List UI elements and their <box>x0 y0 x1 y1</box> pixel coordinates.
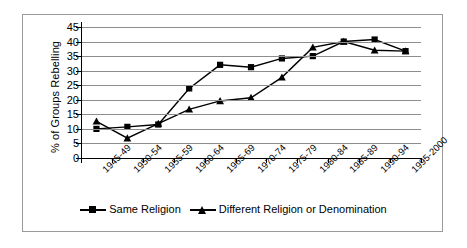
gridline <box>81 100 421 101</box>
x-tick-mark <box>390 159 391 163</box>
gridline <box>81 85 421 86</box>
gridline <box>81 56 421 57</box>
y-tick-mark <box>76 114 81 115</box>
gridline <box>81 71 421 72</box>
y-tick-mark <box>76 129 81 130</box>
x-tick-mark <box>359 159 360 163</box>
chart-legend: Same Religion Different Religion or Deno… <box>23 204 444 215</box>
x-tick-mark <box>81 159 82 163</box>
legend-label: Different Religion or Denomination <box>219 204 387 215</box>
x-tick-mark <box>205 159 206 163</box>
data-point-triangle <box>123 134 131 141</box>
y-tick-mark <box>76 143 81 144</box>
data-point-square <box>217 62 223 68</box>
series-canvas <box>81 27 421 158</box>
legend-marker-triangle-icon <box>190 205 216 215</box>
x-tick-mark <box>143 159 144 163</box>
chart-figure: % of Groups Rebelling 454035302520151050… <box>22 14 443 232</box>
x-tick-mark <box>112 159 113 163</box>
legend-label: Same Religion <box>109 204 181 215</box>
gridline <box>81 129 421 130</box>
legend-entry-different-religion: Different Religion or Denomination <box>190 204 387 215</box>
x-tick-mark <box>328 159 329 163</box>
plot-area <box>81 27 421 158</box>
x-tick-mark <box>266 159 267 163</box>
data-point-square <box>186 85 192 91</box>
y-axis-line <box>81 22 82 158</box>
y-tick-mark <box>76 100 81 101</box>
x-tick-mark <box>297 159 298 163</box>
x-tick-mark <box>236 159 237 163</box>
legend-marker-square-icon <box>80 205 106 215</box>
gridline <box>81 27 421 28</box>
y-tick-mark <box>76 85 81 86</box>
gridline <box>81 42 421 43</box>
y-tick-mark <box>76 71 81 72</box>
gridline <box>81 114 421 115</box>
y-tick-mark <box>76 27 81 28</box>
x-tick-mark <box>421 159 422 163</box>
data-point-triangle <box>93 117 101 124</box>
y-tick-mark <box>76 42 81 43</box>
data-point-square <box>248 64 254 70</box>
x-tick-mark <box>174 159 175 163</box>
y-tick-mark <box>76 56 81 57</box>
legend-entry-same-religion: Same Religion <box>80 204 181 215</box>
chart-plot-wrapper: % of Groups Rebelling 454035302520151050… <box>23 15 444 233</box>
series-line-1 <box>96 40 405 129</box>
